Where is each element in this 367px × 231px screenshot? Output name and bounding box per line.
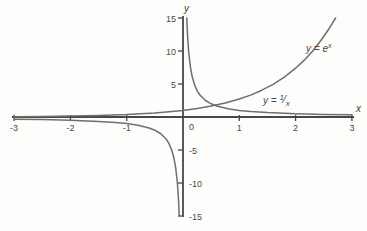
reciprocal-negative-branch bbox=[14, 119, 179, 216]
function-plot: y x -3-2-10123-15-10-551015 y = ex y = 1… bbox=[0, 0, 367, 231]
exp-curve-label-exponent: x bbox=[328, 42, 332, 49]
x-tick-label: -3 bbox=[10, 123, 18, 133]
x-tick-label: 3 bbox=[349, 123, 354, 133]
exp-curve-label-text: y = e bbox=[306, 43, 328, 54]
y-axis-label: y bbox=[183, 3, 190, 14]
x-tick-label: -2 bbox=[66, 123, 74, 133]
y-tick-label: 15 bbox=[166, 14, 176, 24]
exp-curve-label: y = ex bbox=[306, 42, 331, 54]
fraction-denominator: x bbox=[286, 99, 290, 108]
y-tick-label: -15 bbox=[189, 212, 202, 222]
reciprocal-curve-label-text: y = bbox=[263, 95, 279, 106]
y-tick-label: -10 bbox=[189, 179, 202, 189]
x-tick-label: 2 bbox=[293, 123, 298, 133]
y-tick-label: 5 bbox=[171, 80, 176, 90]
origin-label: 0 bbox=[189, 122, 194, 132]
reciprocal-curve-label: y = 1⁄x bbox=[263, 95, 290, 106]
x-axis-label: x bbox=[355, 103, 362, 114]
plot-canvas: y x -3-2-10123-15-10-551015 bbox=[0, 0, 367, 231]
y-tick-label: 10 bbox=[166, 47, 176, 57]
x-tick-label: 1 bbox=[237, 123, 242, 133]
y-tick-label: -5 bbox=[189, 146, 197, 156]
